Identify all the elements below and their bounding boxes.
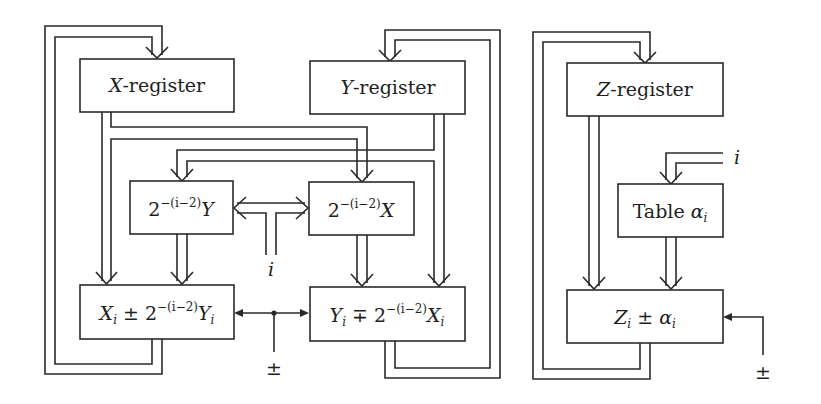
arrowhead-icon — [583, 277, 605, 289]
z-sign-label: ± — [755, 361, 771, 383]
table-index-label: i — [734, 146, 740, 168]
svg-text:Zi ± αi: Zi ± αi — [613, 306, 676, 331]
svg-text:Y-register: Y-register — [340, 76, 436, 98]
arrowhead-icon — [428, 274, 450, 286]
x-shifter: 2−(i−2)X — [309, 182, 414, 235]
arrowhead-right-icon — [300, 309, 309, 317]
alpha-table: Table αi — [618, 184, 723, 237]
svg-text:Table αi: Table αi — [633, 200, 708, 225]
svg-text:X-register: X-register — [107, 74, 206, 96]
x-adder: Xi ± 2−(i−2)Yi — [80, 285, 234, 339]
arrowhead-icon — [634, 52, 656, 63]
table-to-z-adder — [660, 237, 682, 289]
cordic-datapath-diagram: X-register Y-register Z-register 2−(i−2)… — [0, 0, 821, 404]
xy-sign-label: ± — [266, 357, 282, 379]
arrowhead-right-icon — [296, 197, 308, 219]
shift-index-label: i — [268, 258, 274, 280]
arrowhead-icon — [351, 274, 373, 286]
arrowhead-icon — [171, 169, 193, 181]
arrowhead-icon — [96, 272, 117, 284]
y-shifter: 2−(i−2)Y — [130, 181, 233, 234]
arrowhead-left-icon — [234, 309, 243, 317]
z-adder: Zi ± αi — [567, 290, 723, 343]
z-register: Z-register — [567, 63, 723, 116]
shift-index-bus — [234, 197, 308, 255]
y-adder: Yi ∓ 2−(i−2)Xi — [310, 287, 465, 341]
xy-sign-control — [234, 309, 309, 352]
arrowhead-icon — [660, 277, 682, 289]
table-index-bus — [660, 153, 723, 184]
arrowhead-icon — [351, 170, 373, 182]
arrowhead-icon — [379, 50, 401, 61]
svg-text:Z-register: Z-register — [596, 78, 694, 100]
y-register: Y-register — [310, 61, 465, 114]
arrowhead-icon — [146, 47, 168, 58]
arrowhead-left-icon — [723, 313, 732, 321]
arrowhead-left-icon — [234, 197, 246, 219]
arrowhead-icon — [660, 172, 682, 184]
z-register-routing — [583, 116, 605, 289]
arrowhead-icon — [171, 272, 193, 284]
x-register: X-register — [80, 59, 234, 112]
z-sign-control — [723, 313, 763, 355]
